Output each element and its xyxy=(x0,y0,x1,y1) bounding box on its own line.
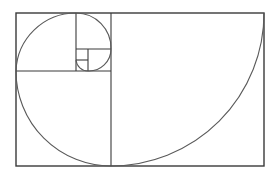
golden-rectangle-frame xyxy=(16,13,264,166)
golden-spiral-curve xyxy=(16,13,264,166)
golden-spiral-diagram xyxy=(0,0,278,176)
